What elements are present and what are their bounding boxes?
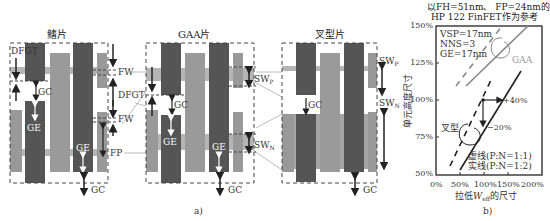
label-gaa: GAA — [512, 55, 533, 65]
ytick-125: 125% — [410, 58, 433, 67]
caption-b: b) — [483, 206, 492, 216]
label-gc-bottom: GC — [91, 185, 105, 195]
ytick-75: 75% — [415, 132, 433, 141]
param-vsp: VSP=17nm — [439, 29, 493, 39]
panel-forksheet-title: 叉型片 — [315, 28, 345, 40]
panel-gaa: GAA片 GC GE GE GC SWP SWN — [146, 28, 275, 195]
label-ge-right: GE — [76, 143, 90, 153]
param-nns: NNS=3 — [440, 39, 475, 49]
chart-b: 以FH=51nm、 FP=24nm的 HP 122 FinFET作为参考 150… — [402, 1, 550, 216]
chart-ylabel: 单元高度尺寸 — [402, 74, 413, 128]
panel-fin: 鳍片 DFGT GC GE GE GC F — [10, 28, 145, 195]
ytick-50: 50% — [415, 169, 433, 178]
label-gc-top: GC — [38, 87, 52, 97]
label-fork-gc-top: GC — [308, 100, 322, 110]
xtick-200: 200% — [521, 180, 544, 189]
annot-minus20: −20% — [487, 123, 512, 132]
caption-a: a) — [194, 206, 203, 216]
param-ge: GE=17nm — [440, 49, 488, 59]
label-dfgt-inner: DFGT — [11, 46, 38, 56]
label-swn-right: SWN — [379, 98, 400, 109]
label-swp-right: SWP — [379, 56, 398, 67]
xtick-0: 0% — [430, 180, 443, 189]
label-swn: SWN — [254, 140, 275, 151]
ytick-150: 150% — [410, 21, 433, 30]
chart-xlabel: 拉低Weff的尺寸 — [455, 190, 517, 202]
legend-dashed: 虚线(P:N=1:1) — [468, 150, 532, 161]
xtick-100: 100% — [474, 180, 497, 189]
label-fp: FP — [110, 148, 122, 158]
label-fork: 叉型 — [441, 123, 459, 133]
panel-gaa-title: GAA片 — [178, 28, 210, 40]
label-gaa-gc-bottom: GC — [228, 185, 242, 195]
figure: 鳍片 DFGT GC GE GE GC F — [0, 0, 550, 221]
panel-fin-title: 鳍片 — [47, 28, 67, 40]
chart-title-line1: 以FH=51nm、 FP=24nm的 — [427, 1, 550, 12]
legend-solid: 实线(P:N=1:2) — [468, 160, 532, 171]
panel-forksheet: 叉型片 GC GC SWP SWN — [282, 28, 400, 195]
label-gaa-gc-top: GC — [174, 100, 188, 110]
label-ge-left: GE — [27, 123, 41, 133]
label-gaa-ge-right: GE — [212, 142, 226, 152]
chart-title-line2: HP 122 FinFET作为参考 — [431, 11, 538, 22]
xtick-50: 50% — [451, 180, 469, 189]
label-gaa-ge-left: GE — [163, 137, 177, 147]
xtick-150: 150% — [497, 180, 520, 189]
ytick-100: 100% — [410, 95, 433, 104]
label-fork-gc-bottom: GC — [363, 185, 377, 195]
label-swp: SWP — [254, 74, 273, 85]
annot-plus40: +40% — [503, 96, 528, 105]
